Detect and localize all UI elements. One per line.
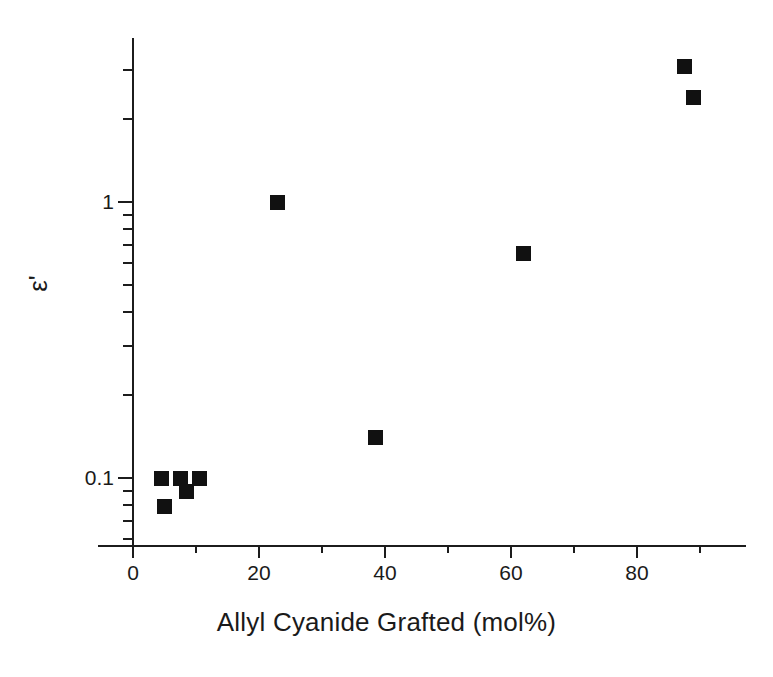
y-axis-tick-label: 1 — [102, 191, 114, 212]
y-axis-minor-tick — [123, 520, 133, 522]
data-point-marker — [173, 471, 188, 486]
y-axis-minor-tick — [123, 118, 133, 120]
x-axis-tick-label: 0 — [103, 562, 163, 583]
x-axis-title: Allyl Cyanide Grafted (mol%) — [0, 607, 773, 638]
data-point-marker — [677, 59, 692, 74]
data-point-marker — [516, 246, 531, 261]
x-axis-tick-label: 60 — [481, 562, 541, 583]
x-axis-tick-label: 40 — [355, 562, 415, 583]
y-axis-major-tick — [118, 201, 133, 203]
y-axis-minor-tick — [123, 394, 133, 396]
x-axis-major-tick — [258, 546, 260, 558]
y-axis-minor-tick — [123, 214, 133, 216]
data-point-marker — [270, 195, 285, 210]
data-point-marker — [686, 90, 701, 105]
x-axis-major-tick — [132, 546, 134, 558]
data-point-marker — [154, 471, 169, 486]
y-axis-minor-tick — [123, 311, 133, 313]
x-axis-major-tick — [384, 546, 386, 558]
y-axis-minor-tick — [123, 262, 133, 264]
data-point-marker — [192, 471, 207, 486]
y-axis-minor-tick — [123, 504, 133, 506]
y-axis-minor-tick — [123, 244, 133, 246]
y-axis-minor-tick — [123, 538, 133, 540]
data-point-marker — [157, 499, 172, 514]
x-axis-minor-tick — [195, 546, 197, 553]
x-axis-minor-tick — [699, 546, 701, 553]
x-axis-major-tick — [636, 546, 638, 558]
data-point-marker — [179, 484, 194, 499]
y-axis-minor-tick — [123, 284, 133, 286]
y-axis-major-tick — [118, 477, 133, 479]
y-axis-minor-tick — [123, 69, 133, 71]
x-axis-major-tick — [510, 546, 512, 558]
x-axis-tick-label: 20 — [229, 562, 289, 583]
y-axis-tick-label: 0.1 — [85, 467, 114, 488]
y-axis-minor-tick — [123, 345, 133, 347]
y-axis-minor-tick — [123, 490, 133, 492]
data-point-marker — [368, 430, 383, 445]
y-axis-line — [132, 38, 134, 546]
x-axis-tick-label: 80 — [607, 562, 667, 583]
x-axis-minor-tick — [573, 546, 575, 553]
y-axis-minor-tick — [123, 228, 133, 230]
x-axis-minor-tick — [321, 546, 323, 553]
y-axis-title: ε' — [23, 254, 54, 314]
x-axis-minor-tick — [447, 546, 449, 553]
scatter-chart-figure: 0.11 020406080 Allyl Cyanide Grafted (mo… — [0, 0, 773, 677]
